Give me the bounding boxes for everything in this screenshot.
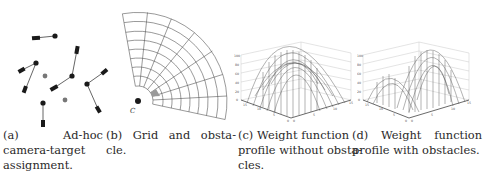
camera-icon — [18, 67, 26, 74]
camera-icon — [95, 105, 102, 113]
camera-target-graph — [0, 0, 110, 128]
caption-b: (b)Gridandobsta- cle. — [106, 128, 236, 158]
target-icon — [84, 81, 89, 86]
surface-plot-d: 100 80 60 40 20 0 15 10 5 0 0 5 10 15 — [357, 0, 489, 128]
polar-grid: C — [110, 0, 230, 128]
svg-text:0: 0 — [236, 98, 238, 102]
camera-icon — [100, 68, 108, 76]
subfigure-c-weight-no-obstacles: 100 80 60 40 20 0 15 10 5 0 0 5 10 15 — [233, 0, 355, 128]
surface-plot-c: 100 80 60 40 20 0 15 10 5 0 0 5 10 15 — [233, 0, 355, 128]
svg-text:20: 20 — [357, 90, 361, 94]
target-icon — [52, 33, 57, 38]
svg-text:10: 10 — [379, 107, 383, 111]
svg-text:80: 80 — [235, 63, 239, 67]
z-axis-ticks: 100 80 60 40 20 0 — [357, 54, 363, 102]
target-icon — [69, 73, 74, 78]
svg-text:0: 0 — [358, 98, 360, 102]
target-icon — [33, 60, 38, 65]
svg-text:15: 15 — [467, 101, 471, 105]
svg-text:10: 10 — [333, 107, 337, 111]
camera-icon — [22, 85, 28, 93]
svg-text:5: 5 — [431, 113, 433, 117]
svg-text:80: 80 — [357, 63, 361, 67]
svg-text:5: 5 — [273, 113, 275, 117]
camera-icons — [18, 36, 109, 127]
camera-icon — [41, 120, 45, 127]
svg-text:100: 100 — [234, 54, 240, 58]
camera-icon — [74, 46, 79, 55]
svg-text:20: 20 — [235, 90, 239, 94]
svg-text:15: 15 — [243, 103, 247, 107]
caption-c: (c)Weightfunction profile without obsta-… — [238, 128, 349, 173]
svg-text:0: 0 — [405, 119, 407, 123]
subfigure-a-assignment — [0, 0, 110, 128]
svg-text:5: 5 — [313, 113, 315, 117]
caption-a: (a)Ad-hoc camera-target assignment. — [3, 128, 103, 173]
subfigure-d-weight-obstacles: 100 80 60 40 20 0 15 10 5 0 0 5 10 15 — [357, 0, 489, 128]
svg-text:0: 0 — [293, 119, 295, 123]
svg-text:100: 100 — [357, 54, 363, 58]
svg-text:60: 60 — [235, 72, 239, 76]
z-axis-ticks: 100 80 60 40 20 0 — [234, 54, 240, 102]
camera-label: C — [130, 107, 136, 115]
svg-text:0: 0 — [411, 119, 413, 123]
target-icon — [40, 100, 45, 105]
svg-text:15: 15 — [349, 101, 353, 105]
svg-text:15: 15 — [365, 103, 369, 107]
caption-d: (d)Weightfunction profile with obstacles… — [352, 128, 482, 158]
svg-text:0: 0 — [287, 119, 289, 123]
svg-text:10: 10 — [257, 107, 261, 111]
unassigned-target-icon — [43, 74, 48, 79]
svg-text:60: 60 — [357, 72, 361, 76]
camera-icon — [32, 36, 40, 41]
svg-text:40: 40 — [235, 81, 239, 85]
unassigned-target-icon — [63, 98, 68, 103]
camera-point-icon — [135, 98, 141, 104]
subfigure-b-grid: C — [110, 0, 230, 128]
obstacle-cell — [151, 89, 161, 96]
svg-text:40: 40 — [357, 81, 361, 85]
svg-text:5: 5 — [393, 113, 395, 117]
target-icons — [33, 33, 89, 105]
svg-text:10: 10 — [451, 107, 455, 111]
